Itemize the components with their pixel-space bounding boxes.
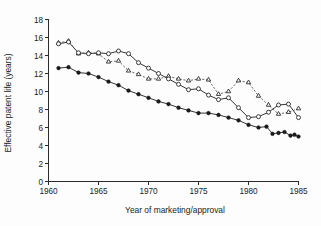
data-point-open-circle [167,77,171,81]
data-point-open-triangle [266,103,270,107]
data-point-filled-circle [147,96,151,100]
data-point-open-circle [197,87,201,91]
data-point-filled-circle [289,134,293,138]
y-axis-label: Effective patent life (years) [3,53,13,152]
open-triangle-series-markers [56,39,300,116]
data-point-open-triangle [286,110,290,114]
data-point-filled-circle [117,83,121,87]
data-point-filled-circle [167,102,171,106]
data-point-open-triangle [296,106,300,110]
effective-patent-life-line-chart: 024681012141618 196019651970197519801985… [0,0,321,226]
data-point-open-triangle [246,80,250,84]
data-point-open-circle [97,51,101,55]
data-point-open-triangle [176,76,180,80]
data-point-filled-circle [197,111,201,115]
data-point-filled-circle [107,80,111,84]
data-point-filled-circle [297,135,301,139]
y-tick-label-12: 12 [34,70,44,79]
data-point-open-circle [157,72,161,76]
x-tick-label-1980: 1980 [239,187,258,196]
data-point-open-circle [297,116,301,120]
data-point-open-triangle [106,59,110,63]
data-point-open-circle [177,82,181,86]
x-tick-label-1975: 1975 [189,187,208,196]
data-point-open-circle [117,49,121,53]
data-point-open-circle [57,42,61,46]
data-point-filled-circle [207,111,211,115]
data-point-filled-circle [283,130,287,134]
y-axis-tick-labels: 024681012141618 [34,16,44,187]
data-point-filled-circle [177,106,181,110]
data-point-open-triangle [186,78,190,82]
data-point-open-circle [77,51,81,55]
data-point-filled-circle [77,71,81,75]
data-point-open-circle [147,66,151,70]
y-tick-label-4: 4 [38,142,43,151]
data-point-open-circle [237,106,241,110]
y-tick-label-0: 0 [38,178,43,187]
data-point-open-triangle [216,92,220,96]
x-axis-tick-labels: 196019651970197519801985 [39,187,308,196]
data-point-filled-circle [97,75,101,79]
data-point-open-triangle [236,78,240,82]
data-point-open-circle [67,40,71,44]
data-point-open-circle [187,88,191,92]
data-point-open-triangle [226,89,230,93]
y-tick-label-14: 14 [34,52,44,61]
data-point-open-triangle [156,76,160,80]
series-group [56,39,300,139]
data-point-open-circle [217,98,221,102]
x-tick-label-1970: 1970 [139,187,158,196]
data-point-open-triangle [136,72,140,76]
data-point-filled-circle [265,125,269,129]
x-axis-label: Year of marketing/approval [125,205,225,215]
x-tick-label-1985: 1985 [289,187,308,196]
x-tick-label-1965: 1965 [89,187,108,196]
data-point-open-triangle [116,58,120,62]
data-point-filled-circle [277,131,281,135]
data-point-filled-circle [57,66,61,70]
y-tick-label-6: 6 [38,124,43,133]
data-point-filled-circle [217,113,221,117]
data-point-open-circle [257,115,261,119]
data-point-open-circle [247,116,251,120]
data-point-filled-circle [257,126,261,130]
data-point-filled-circle [87,72,91,76]
data-point-open-circle [87,52,91,56]
data-point-filled-circle [227,116,231,120]
y-tick-label-2: 2 [38,160,43,169]
data-point-open-triangle [196,76,200,80]
y-tick-label-16: 16 [34,34,44,43]
chart-figure: 024681012141618 196019651970197519801985… [0,0,321,226]
data-point-open-circle [107,52,111,56]
data-point-filled-circle [157,100,161,104]
data-point-open-circle [227,96,231,100]
data-point-filled-circle [293,133,297,137]
data-point-filled-circle [67,65,71,69]
data-point-filled-circle [247,123,251,127]
data-point-filled-circle [237,118,241,122]
data-point-filled-circle [127,89,131,93]
x-tick-label-1960: 1960 [39,187,58,196]
data-point-open-circle [267,110,271,114]
y-tick-label-18: 18 [34,16,44,25]
data-point-open-circle [137,61,141,65]
data-point-filled-circle [187,109,191,113]
data-point-filled-circle [137,92,141,96]
data-point-open-circle [287,102,291,106]
data-point-open-circle [127,52,131,56]
data-point-filled-circle [271,132,275,136]
data-point-open-circle [277,103,281,107]
y-tick-label-10: 10 [34,88,44,97]
data-point-open-triangle [206,77,210,81]
data-point-open-circle [207,93,211,97]
y-tick-label-8: 8 [38,106,43,115]
data-point-open-triangle [146,76,150,80]
